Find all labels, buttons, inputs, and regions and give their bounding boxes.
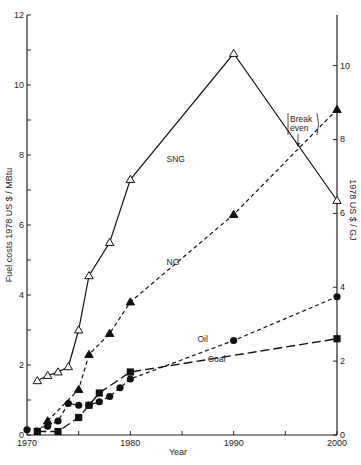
series-coal: [34, 335, 341, 435]
series-line: [37, 339, 337, 432]
square-marker: [85, 402, 92, 409]
circle-marker: [230, 337, 237, 344]
series-label-oil: Oil: [198, 334, 209, 344]
filled-triangle-marker: [333, 105, 341, 112]
series-label-coal: Coal: [208, 354, 226, 364]
square-marker: [96, 389, 103, 396]
y-right-tick-label: 10: [340, 61, 350, 71]
break-even-bracket-right: [317, 113, 319, 135]
y-tick-label: 8: [19, 150, 24, 160]
y-tick-label: 4: [19, 290, 24, 300]
x-tick-label: 1980: [120, 438, 140, 448]
series-line: [48, 110, 337, 422]
series-oil: [23, 293, 340, 433]
open-triangle-marker: [54, 368, 62, 375]
chart-canvas: 02468101202468101970198019902000 SNGNGOi…: [0, 0, 361, 465]
square-marker: [34, 428, 41, 435]
circle-marker: [54, 417, 61, 424]
y-right-tick-label: 4: [340, 282, 345, 292]
circle-marker: [75, 402, 82, 409]
circle-marker: [96, 398, 103, 405]
break-even-label-line2: even: [290, 123, 309, 133]
open-triangle-marker: [64, 363, 72, 370]
open-triangle-marker: [85, 272, 93, 279]
open-triangle-marker: [229, 49, 237, 56]
axes: 02468101202468101970198019902000: [14, 10, 350, 448]
fuel-cost-chart: 02468101202468101970198019902000 SNGNGOi…: [0, 0, 361, 465]
y-tick-label: 2: [19, 360, 24, 370]
open-triangle-marker: [74, 326, 82, 333]
series-label-ng: NG: [167, 257, 180, 267]
circle-marker: [23, 426, 30, 433]
y-right-tick-label: 2: [340, 356, 345, 366]
y-tick-label: 10: [14, 80, 24, 90]
series-label-sng: SNG: [167, 154, 185, 164]
filled-triangle-marker: [74, 385, 82, 392]
x-tick-label: 1990: [224, 438, 244, 448]
x-tick-label: 1970: [17, 438, 37, 448]
circle-marker: [106, 393, 113, 400]
square-marker: [75, 414, 82, 421]
labels-layer: SNGNGOilCoal: [167, 113, 319, 364]
y-right-tick-label: 8: [340, 134, 345, 144]
y-tick-label: 6: [19, 220, 24, 230]
open-triangle-marker: [105, 238, 113, 245]
series-layer: [23, 49, 341, 435]
filled-triangle-marker: [105, 329, 113, 336]
open-triangle-marker: [333, 196, 341, 203]
open-triangle-marker: [33, 377, 41, 384]
series-sng: [33, 49, 341, 383]
y-right-tick-label: 6: [340, 208, 345, 218]
x-axis-title: Year: [169, 447, 187, 457]
x-tick-label: 2000: [327, 438, 347, 448]
square-marker: [333, 335, 340, 342]
circle-marker: [44, 423, 51, 430]
series-ng: [43, 105, 341, 424]
circle-marker: [127, 375, 134, 382]
y-axis-title: Fuel costs 1978 US $ / MBtu: [4, 168, 14, 283]
circle-marker: [333, 293, 340, 300]
series-line: [27, 297, 337, 430]
square-marker: [127, 368, 134, 375]
square-marker: [54, 428, 61, 435]
filled-triangle-marker: [126, 298, 134, 305]
y-axis-right-title: 1978 US $ / GJ: [348, 179, 358, 241]
y-tick-label: 12: [14, 10, 24, 20]
break-even-annotation: Break even: [290, 114, 313, 133]
circle-marker: [116, 384, 123, 391]
circle-marker: [65, 400, 72, 407]
